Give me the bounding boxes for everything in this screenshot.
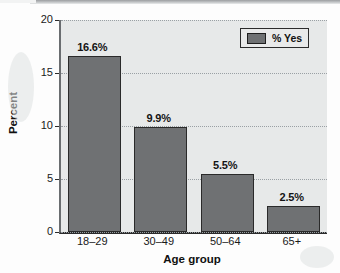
bar[interactable] [201, 174, 254, 232]
legend-swatch-pct-yes [247, 33, 266, 44]
chart-legend[interactable]: % Yes [240, 28, 309, 48]
bar[interactable] [267, 206, 320, 233]
y-axis-title: Percent [7, 78, 19, 148]
bar-chart-figure: Percent 05101520 16.6%9.9%5.5%2.5% 18–29… [0, 0, 340, 273]
bar-value-label: 2.5% [265, 191, 318, 203]
y-axis-tick-label: 0 [47, 225, 53, 237]
bar-value-label: 9.9% [132, 112, 185, 124]
bar[interactable] [68, 56, 121, 232]
legend-label-pct-yes: % Yes [272, 32, 302, 44]
y-axis-tick-label: 5 [47, 172, 53, 184]
bar-value-label: 16.6% [66, 41, 119, 53]
bar[interactable] [134, 127, 187, 232]
bar-value-label: 5.5% [199, 159, 252, 171]
gridline [61, 232, 327, 233]
x-axis-tick-labels: 18–2930–4950–6465+ [59, 235, 325, 251]
y-axis-tick-label: 10 [41, 119, 53, 131]
x-axis-tick-label: 18–29 [59, 235, 126, 251]
gridline [61, 20, 327, 21]
x-axis-tick-label: 50–64 [192, 235, 259, 251]
scan-artifact-band [30, 0, 340, 4]
x-axis-tick-label: 65+ [259, 235, 326, 251]
x-axis-tick-label: 30–49 [126, 235, 193, 251]
y-axis-tick-label: 15 [41, 66, 53, 78]
y-axis-tick-label: 20 [41, 13, 53, 25]
x-axis-title: Age group [59, 253, 325, 265]
y-axis-tick-labels: 05101520 [22, 0, 53, 273]
